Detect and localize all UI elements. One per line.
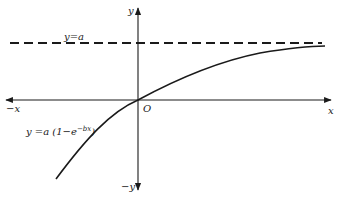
exponential-approach-graph: y −y x −x O y=a y =a (1−e−bx) (0, 0, 342, 201)
exponential-curve (56, 46, 325, 179)
negative-x-axis-label: −x (6, 104, 20, 114)
curve-equation-exponent: −bx (77, 125, 91, 133)
curve-equation-suffix: ) (91, 126, 95, 137)
negative-y-axis-label: −y (121, 182, 135, 192)
asymptote-label: y=a (64, 32, 84, 42)
origin-label: O (143, 104, 151, 114)
curve-equation-label: y =a (1−e−bx) (26, 126, 95, 137)
graph-canvas (0, 0, 342, 201)
curve-equation-prefix: y =a (1−e (26, 126, 77, 137)
x-axis-label: x (328, 106, 334, 116)
y-axis-label: y (128, 6, 134, 16)
